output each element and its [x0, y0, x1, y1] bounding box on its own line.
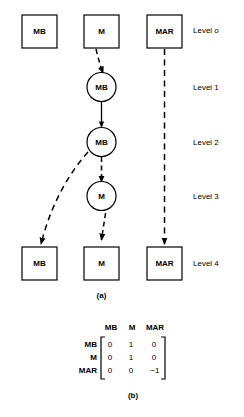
level-label-1: Level 1: [193, 83, 219, 92]
matrix-col-header-2: MAR: [146, 323, 164, 332]
matrix-row-label-0: MB: [85, 340, 98, 349]
node-circle-mb-l1: MB: [87, 73, 116, 102]
node-box-mb-top: MB: [22, 15, 57, 48]
node-box-mar-bot: MAR: [147, 247, 182, 280]
node-label: MAR: [155, 27, 173, 36]
matrix-cell-1-1: 1: [129, 353, 134, 362]
node-label: MB: [33, 259, 46, 268]
node-label: M: [98, 259, 105, 268]
level-label-3: Level 3: [193, 192, 219, 201]
node-box-mb-bot: MB: [22, 247, 57, 280]
edge-m-top-to-mb-l1: [96, 49, 103, 73]
node-label: MB: [95, 138, 108, 147]
matrix-cell-2-2: −1: [150, 366, 160, 375]
matrix-left-bracket: [101, 337, 105, 379]
matrix-cell-0-2: 0: [152, 340, 157, 349]
node-box-m-bot: M: [84, 247, 119, 280]
matrix-cell-1-2: 0: [152, 353, 157, 362]
level-label-4: Level 4: [193, 259, 219, 268]
node-label: MB: [95, 83, 108, 92]
node-label: MB: [33, 27, 46, 36]
level-label-0: Level o: [193, 26, 219, 35]
edge-mb-l2-to-mb-bot: [41, 152, 88, 244]
dependency-graph-figure: MB M MAR MB circle (level 1) : short das…: [0, 0, 244, 417]
matrix-cell-0-1: 1: [129, 340, 134, 349]
node-label: M: [98, 192, 105, 201]
matrix-row-label-1: M: [90, 353, 97, 362]
figure-root: MB M MAR MB circle (level 1) : short das…: [0, 0, 244, 417]
node-circle-m-l3: M: [87, 182, 116, 211]
matrix-col-header-0: MB: [105, 323, 118, 332]
node-circle-mb-l2: MB: [87, 128, 116, 157]
node-box-mar-top: MAR: [147, 15, 182, 48]
matrix-cell-2-1: 0: [129, 366, 134, 375]
panel-a-caption: (a): [97, 291, 107, 300]
panel-b-caption: (b): [128, 391, 139, 400]
matrix-right-bracket: [161, 337, 165, 379]
matrix-col-header-1: M: [129, 323, 136, 332]
matrix-row-label-2: MAR: [79, 366, 97, 375]
matrix-cell-1-0: 0: [108, 353, 113, 362]
node-label: MAR: [155, 259, 173, 268]
level-label-2: Level 2: [193, 138, 219, 147]
node-box-m-top: M: [84, 15, 119, 48]
matrix-cell-2-0: 0: [108, 366, 113, 375]
matrix-cell-0-0: 0: [108, 340, 113, 349]
node-label: M: [98, 27, 105, 36]
